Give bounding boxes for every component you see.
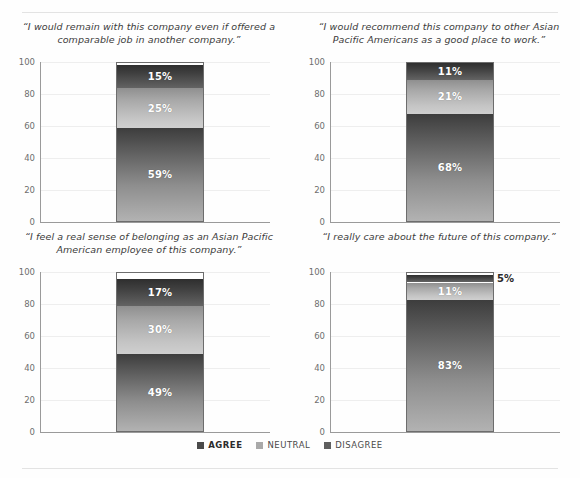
bar-segment-agree[interactable]: 49% xyxy=(117,354,203,431)
y-axis-tick: 40 xyxy=(24,363,35,373)
bar-segment-disagree[interactable]: 5% xyxy=(407,275,493,283)
legend-swatch-icon xyxy=(324,442,331,449)
chart-panel: “I feel a real sense of belonging as an … xyxy=(0,226,290,436)
chart-panel: “I really care about the future of this … xyxy=(290,226,580,436)
x-axis-line xyxy=(40,432,270,433)
plot-area: 100 80 60 40 20 0 5% 11% 83% xyxy=(330,272,560,433)
y-axis-tick: 80 xyxy=(314,299,325,309)
stacked-bar[interactable]: 15% 25% 59% xyxy=(116,62,204,222)
bar-segment-label: 49% xyxy=(148,387,173,398)
bar-segment-neutral[interactable]: 25% xyxy=(117,88,203,128)
header-divider xyxy=(22,12,558,13)
y-axis-tick: 100 xyxy=(19,57,35,67)
bar-segment-label: 11% xyxy=(438,286,463,297)
chart-legend: AGREE NEUTRAL DISAGREE xyxy=(0,440,580,450)
bar-segment-neutral[interactable]: 30% xyxy=(117,306,203,353)
y-axis-tick: 40 xyxy=(314,363,325,373)
y-axis-tick: 0 xyxy=(320,427,325,437)
bar-segment-label: 11% xyxy=(438,66,463,77)
legend-item-neutral[interactable]: NEUTRAL xyxy=(256,440,310,450)
bar-segment-neutral[interactable]: 11% xyxy=(407,283,493,300)
y-axis-tick: 20 xyxy=(314,395,325,405)
stacked-bar[interactable]: 17% 30% 49% xyxy=(116,272,204,432)
y-axis-tick: 20 xyxy=(314,185,325,195)
y-axis-tick: 60 xyxy=(314,121,325,131)
x-axis-line xyxy=(330,432,560,433)
y-axis-tick: 100 xyxy=(309,57,325,67)
bar-segment-label: 83% xyxy=(438,360,463,371)
legend-label: DISAGREE xyxy=(335,440,383,450)
stacked-bar[interactable]: 11% 21% 68% xyxy=(406,62,494,222)
y-axis-tick: 60 xyxy=(24,121,35,131)
legend-item-agree[interactable]: AGREE xyxy=(197,440,242,450)
bar-segment-label: 59% xyxy=(148,169,173,180)
legend-label: NEUTRAL xyxy=(267,440,310,450)
x-axis-line xyxy=(40,222,270,223)
chart-panel: “I would recommend this company to other… xyxy=(290,16,580,226)
legend-swatch-icon xyxy=(256,442,263,449)
chart-panel: “I would remain with this company even i… xyxy=(0,16,290,226)
y-axis-tick: 0 xyxy=(30,427,35,437)
y-axis-line xyxy=(330,272,331,433)
plot-area: 100 80 60 40 20 0 17% 30% 49% xyxy=(40,272,270,433)
bar-segment-disagree[interactable]: 11% xyxy=(407,63,493,80)
y-axis-tick: 80 xyxy=(24,299,35,309)
y-axis-tick: 80 xyxy=(24,89,35,99)
legend-swatch-icon xyxy=(197,442,204,449)
y-axis-tick: 20 xyxy=(24,395,35,405)
x-axis-line xyxy=(330,222,560,223)
y-axis-tick: 100 xyxy=(309,267,325,277)
y-axis-line xyxy=(40,272,41,433)
y-axis-tick: 40 xyxy=(314,153,325,163)
bar-segment-label: 30% xyxy=(148,324,173,335)
legend-label: AGREE xyxy=(208,440,242,450)
bar-segment-label: 25% xyxy=(148,103,173,114)
y-axis-tick: 80 xyxy=(314,89,325,99)
chart-page: “I would remain with this company even i… xyxy=(0,0,580,478)
chart-title: “I feel a real sense of belonging as an … xyxy=(18,231,280,256)
bar-segment-label: 15% xyxy=(148,71,173,82)
chart-title: “I would remain with this company even i… xyxy=(18,21,280,46)
bar-segment-label: 68% xyxy=(438,162,463,173)
bar-segment-label: 21% xyxy=(438,91,463,102)
bar-segment-label: 17% xyxy=(148,287,173,298)
bar-segment-neutral[interactable]: 21% xyxy=(407,80,493,113)
bar-segment-agree[interactable]: 68% xyxy=(407,114,493,221)
bar-segment-agree[interactable]: 59% xyxy=(117,128,203,221)
y-axis-line xyxy=(40,62,41,223)
y-axis-tick: 20 xyxy=(24,185,35,195)
y-axis-tick: 60 xyxy=(24,331,35,341)
legend-item-disagree[interactable]: DISAGREE xyxy=(324,440,383,450)
footer-divider xyxy=(22,468,558,469)
bar-segment-label: 5% xyxy=(497,273,514,284)
chart-title: “I would recommend this company to other… xyxy=(308,21,570,46)
chart-title: “I really care about the future of this … xyxy=(308,231,570,244)
plot-area: 100 80 60 40 20 0 11% 21% 68% xyxy=(330,62,560,223)
y-axis-tick: 40 xyxy=(24,153,35,163)
y-axis-tick: 100 xyxy=(19,267,35,277)
bar-segment-disagree[interactable]: 17% xyxy=(117,279,203,306)
stacked-bar[interactable]: 5% 11% 83% xyxy=(406,272,494,432)
y-axis-line xyxy=(330,62,331,223)
chart-grid: “I would remain with this company even i… xyxy=(0,16,580,436)
plot-area: 100 80 60 40 20 0 15% 25% 59% xyxy=(40,62,270,223)
bar-segment-disagree[interactable]: 15% xyxy=(117,65,203,89)
bar-segment-agree[interactable]: 83% xyxy=(407,300,493,431)
y-axis-tick: 60 xyxy=(314,331,325,341)
